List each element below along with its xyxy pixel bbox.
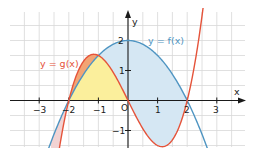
y-tick-label-1: 1 [119,66,125,76]
x-tick-label-1: 1 [155,105,161,115]
y-tick-label-2: 2 [118,36,124,46]
x-tick-label-2: 2 [184,105,190,115]
x-tick-label-neg1: −1 [93,105,106,115]
y-axis-arrow-icon [125,10,131,18]
x-axis-label: x [234,86,240,97]
g-curve-label: y = g(x) [40,58,79,69]
x-tick-label-neg3: −3 [33,105,46,115]
origin-label: O [121,103,128,113]
function-graph: −3 −2 −1 O 1 2 3 2 1 −1 x y y = f(x) y =… [0,0,256,157]
f-curve-label: y = f(x) [148,35,184,46]
axes [10,10,246,148]
y-axis-label: y [132,16,138,27]
y-tick-label-neg1: −1 [112,126,125,136]
x-tick-label-neg2: −2 [62,105,75,115]
x-tick-label-3: 3 [213,105,219,115]
x-axis-arrow-icon [238,98,246,104]
